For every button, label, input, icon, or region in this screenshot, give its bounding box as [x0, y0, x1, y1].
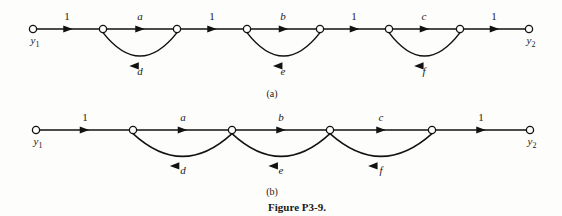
- forward-edge-arrowhead: [490, 25, 500, 32]
- input-node-label: y1: [33, 135, 43, 150]
- edge-gain-label: c: [422, 10, 427, 22]
- feedback-gain-label: f: [422, 65, 427, 77]
- edge-gain-label: c: [379, 111, 384, 123]
- subcaption-a: (a): [266, 88, 277, 100]
- forward-edge-arrowhead: [80, 126, 90, 133]
- forward-edge-arrowhead: [476, 126, 486, 133]
- forward-edge-arrowhead: [350, 25, 360, 32]
- feedback-arc: [133, 134, 232, 157]
- edge-gain-label: 1: [491, 10, 497, 22]
- graph-node[interactable]: [32, 126, 39, 133]
- feedback-arc-arrowhead: [368, 162, 378, 169]
- graph-node[interactable]: [385, 25, 392, 32]
- edge-gain-label: 1: [351, 10, 357, 22]
- graph-node[interactable]: [525, 25, 532, 32]
- subcaption-b: (b): [266, 186, 278, 198]
- forward-edge-arrowhead: [207, 25, 217, 32]
- forward-edge-arrowhead: [279, 25, 289, 32]
- graph-node[interactable]: [326, 126, 333, 133]
- graph-node[interactable]: [99, 25, 106, 32]
- edge-gain-label: 1: [82, 111, 88, 123]
- edge-gain-label: a: [137, 10, 143, 22]
- signal-flow-graph-figure: def1a1b1c1y1y2 def1abc1y1y2 (a) (b) Figu…: [0, 0, 562, 216]
- forward-edge-arrowhead: [276, 126, 286, 133]
- graph-node[interactable]: [173, 25, 180, 32]
- signal-flow-graph-a: def1a1b1c1y1y2: [29, 10, 535, 77]
- graph-node[interactable]: [228, 126, 235, 133]
- forward-edge-arrowhead: [376, 126, 386, 133]
- feedback-arc: [330, 134, 432, 157]
- feedback-arc: [103, 33, 177, 56]
- graph-node[interactable]: [316, 25, 323, 32]
- feedback-gain-label: f: [379, 164, 384, 176]
- feedback-arc: [232, 134, 330, 157]
- feedback-gain-label: d: [137, 65, 143, 77]
- forward-edge-arrowhead: [178, 126, 188, 133]
- figure-caption: Figure P3-9.: [268, 201, 326, 213]
- graph-node[interactable]: [456, 25, 463, 32]
- graph-node[interactable]: [526, 126, 533, 133]
- graph-node[interactable]: [29, 25, 36, 32]
- output-node-label: y2: [527, 135, 537, 150]
- edge-gain-label: b: [280, 10, 286, 22]
- forward-edge-arrowhead: [63, 25, 73, 32]
- edge-gain-label: 1: [64, 10, 70, 22]
- input-node-label: y1: [30, 34, 40, 49]
- forward-edge-arrowhead: [135, 25, 145, 32]
- graph-node[interactable]: [243, 25, 250, 32]
- edge-gain-label: 1: [478, 111, 484, 123]
- output-node-label: y2: [526, 34, 536, 49]
- signal-flow-graph-b: def1abc1y1y2: [32, 111, 536, 176]
- feedback-gain-label: e: [279, 164, 284, 176]
- graph-node[interactable]: [428, 126, 435, 133]
- feedback-arc: [389, 33, 460, 56]
- edge-gain-label: 1: [209, 10, 215, 22]
- edge-gain-label: a: [180, 111, 186, 123]
- figure-page: def1a1b1c1y1y2 def1abc1y1y2 (a) (b) Figu…: [0, 0, 562, 216]
- feedback-arc-arrowhead: [268, 162, 278, 169]
- feedback-arc-arrowhead: [170, 162, 180, 169]
- feedback-arc: [247, 33, 320, 56]
- graph-node[interactable]: [129, 126, 136, 133]
- feedback-gain-label: d: [180, 164, 186, 176]
- edge-gain-label: b: [278, 111, 284, 123]
- feedback-gain-label: e: [281, 65, 286, 77]
- forward-edge-arrowhead: [420, 25, 430, 32]
